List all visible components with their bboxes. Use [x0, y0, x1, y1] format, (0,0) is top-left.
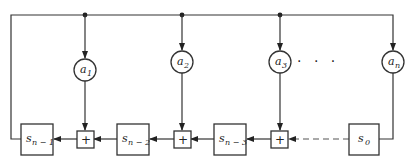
- ellipsis: · · ·: [297, 53, 339, 69]
- coefficient-a2: a 2: [171, 51, 193, 73]
- register-s-n-3: s n − 3: [214, 124, 247, 155]
- svg-text:n − 3: n − 3: [225, 138, 247, 147]
- coefficient-a3: a 3: [269, 51, 291, 73]
- adder-3: +: [271, 131, 288, 148]
- svg-text:3: 3: [282, 61, 287, 70]
- svg-text:+: +: [275, 133, 285, 147]
- svg-text:a: a: [80, 63, 87, 76]
- svg-text:0: 0: [365, 138, 370, 147]
- svg-text:+: +: [178, 133, 188, 147]
- svg-text:n − 2: n − 2: [128, 138, 150, 147]
- svg-text:a: a: [177, 55, 184, 68]
- coefficient-an: a n: [382, 51, 404, 73]
- feedback-bus: [11, 13, 393, 139]
- svg-text:+: +: [81, 133, 91, 147]
- svg-text:a: a: [275, 55, 282, 68]
- adder-1: +: [77, 131, 94, 148]
- register-s-n-2: s n − 2: [117, 124, 150, 155]
- lfsr-diagram: a 1 a 2 a 3 a n · · · s n − 1 s n − 2: [0, 0, 414, 168]
- coefficient-a1: a 1: [74, 59, 96, 81]
- register-s-0: s 0: [349, 124, 379, 155]
- svg-text:2: 2: [183, 61, 189, 70]
- svg-text:s: s: [358, 132, 364, 145]
- svg-text:a: a: [388, 55, 395, 68]
- svg-text:n: n: [395, 61, 400, 70]
- svg-text:n − 1: n − 1: [32, 138, 54, 147]
- adder-2: +: [174, 131, 191, 148]
- svg-text:1: 1: [87, 69, 92, 78]
- register-s-n-1: s n − 1: [21, 124, 54, 155]
